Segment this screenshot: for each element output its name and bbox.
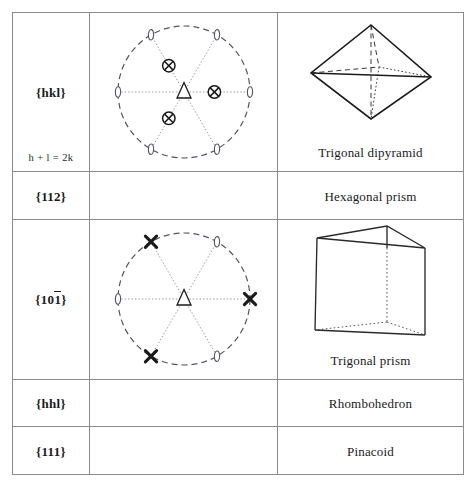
table-row: {112} Hexagonal prism <box>13 172 464 220</box>
form-symbol-label: {101} <box>35 292 66 307</box>
form-name-cell-trigonal-dipyramid: Trigonal dipyramid <box>278 13 464 172</box>
hidden-edges <box>311 25 431 119</box>
stereogram-cell-101bar <box>90 220 278 379</box>
prism-edges <box>315 226 425 335</box>
form-symbol-label: {111} <box>36 444 66 459</box>
form-name-label: Trigonal dipyramid <box>278 145 463 161</box>
form-name-cell-rhombohedron: Rhombohedron <box>278 379 464 427</box>
stereogram-cell-hkl <box>90 13 278 172</box>
solid-svg <box>291 15 451 131</box>
threefold-axis-triangle <box>177 83 191 99</box>
stereogram-cell-111-empty <box>90 427 278 475</box>
form-name-cell-pinacoid: Pinacoid <box>278 427 464 475</box>
stereogram-trigonal-prism <box>90 220 277 378</box>
solid-svg <box>295 222 447 340</box>
solid-trigonal-prism <box>278 222 463 340</box>
form-symbol-label: {hkl} <box>36 85 66 100</box>
form-symbol-cell-112: {112} <box>13 172 90 220</box>
overbar-digit: 1 <box>54 292 61 308</box>
form-name-cell-trigonal-prism: Trigonal prism <box>278 220 464 379</box>
top-text-bleed <box>12 0 312 4</box>
table-row: {111} Pinacoid <box>13 427 464 475</box>
table-row: {101} <box>13 220 464 379</box>
form-name-label: Rhombohedron <box>329 396 412 411</box>
pole-markers <box>162 60 220 125</box>
form-name-label: Trigonal prism <box>278 353 463 369</box>
hidden-edges <box>315 248 425 335</box>
stereogram-trigonal-dipyramid <box>90 13 277 171</box>
stereogram-svg <box>109 22 259 162</box>
form-name-cell-hexagonal-prism: Hexagonal prism <box>278 172 464 220</box>
table-row: {hkl} h + l = 2k <box>13 13 464 172</box>
stereogram-cell-112-empty <box>90 172 278 220</box>
solid-trigonal-dipyramid <box>278 15 463 131</box>
form-symbol-cell-hhl: {hhl} <box>13 379 90 427</box>
table-row: {hhl} Rhombohedron <box>13 379 464 427</box>
form-name-label: Pinacoid <box>347 444 394 459</box>
table-body: {hkl} h + l = 2k <box>13 13 464 475</box>
stereogram-cell-hhl-empty <box>90 379 278 427</box>
crystal-forms-table: {hkl} h + l = 2k <box>12 12 464 475</box>
form-symbol-label: {112} <box>36 189 67 204</box>
form-symbol-cell-101bar: {101} <box>13 220 90 379</box>
stereogram-svg <box>109 229 259 369</box>
form-symbol-cell-111: {111} <box>13 427 90 475</box>
form-condition-label: h + l = 2k <box>13 152 89 163</box>
form-symbol-label: {hhl} <box>36 396 66 411</box>
form-name-label: Hexagonal prism <box>324 189 416 204</box>
threefold-axis-triangle <box>177 290 191 306</box>
form-symbol-cell-hkl: {hkl} h + l = 2k <box>13 13 90 172</box>
